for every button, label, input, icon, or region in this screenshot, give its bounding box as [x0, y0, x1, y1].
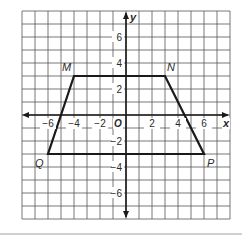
y-tick-label: −6	[111, 188, 123, 199]
coordinate-plane: −6−4−2246642−2−4−6OxyMNPQ	[0, 0, 242, 238]
y-tick-label: 4	[116, 58, 122, 69]
x-tick-label: 4	[175, 118, 181, 129]
y-tick-label: 6	[116, 32, 122, 43]
x-tick-label: −6	[42, 118, 54, 129]
x-tick-label: −4	[68, 118, 80, 129]
x-tick-label: 2	[149, 118, 155, 129]
coordinate-plane-figure: −6−4−2246642−2−4−6OxyMNPQ	[0, 0, 242, 238]
origin-label: O	[114, 118, 122, 129]
x-tick-label: −2	[94, 118, 106, 129]
x-tick-label: 6	[201, 118, 207, 129]
x-axis-label: x	[222, 117, 230, 129]
y-axis-label: y	[129, 11, 137, 23]
vertex-label-q: Q	[35, 157, 44, 169]
vertex-label-n: N	[167, 61, 175, 73]
vertex-label-m: M	[62, 61, 72, 73]
y-tick-label: −2	[111, 136, 123, 147]
y-tick-label: 2	[116, 84, 122, 95]
y-tick-label: −4	[111, 162, 123, 173]
vertex-label-p: P	[207, 157, 215, 169]
